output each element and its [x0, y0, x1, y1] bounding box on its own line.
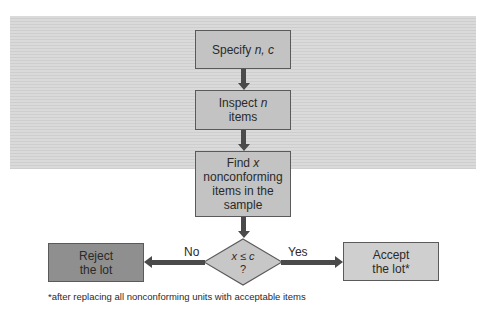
- arrow-head-down-icon: [238, 144, 250, 151]
- arrow-specify-inspect: [241, 69, 246, 83]
- inspect-node: Inspect nitems: [195, 90, 291, 130]
- decision-line2: ?: [240, 263, 246, 275]
- yes-label: Yes: [288, 245, 308, 259]
- arrow-no: [151, 260, 205, 265]
- footnote: *after replacing all nonconforming units…: [48, 291, 306, 302]
- arrow-head-down-icon: [238, 231, 250, 238]
- arrow-head-right-icon: [335, 256, 343, 268]
- find-line4: sample: [224, 198, 263, 212]
- specify-text: Specify: [212, 43, 255, 57]
- no-label: No: [184, 245, 199, 259]
- find-node: Find xnonconformingitems in thesample: [195, 151, 291, 217]
- arrow-yes: [281, 260, 336, 265]
- find-line3: items in the: [212, 184, 273, 198]
- inspect-var: n: [261, 96, 268, 110]
- accept-line2: the lot*: [372, 262, 409, 276]
- specify-vars: n, c: [255, 43, 274, 57]
- arrow-inspect-find: [241, 130, 246, 144]
- inspect-line2: items: [229, 110, 258, 124]
- inspect-text: Inspect: [219, 96, 261, 110]
- reject-node: Rejectthe lot: [48, 243, 144, 282]
- arrow-head-down-icon: [238, 83, 250, 90]
- accept-line1: Accept: [373, 248, 410, 262]
- decision-line1: x ≤ c: [231, 250, 254, 262]
- arrow-head-left-icon: [144, 256, 152, 268]
- reject-line1: Reject: [79, 249, 113, 263]
- decision-text: x ≤ c?: [203, 250, 283, 276]
- specify-node: Specify n, c: [195, 30, 291, 69]
- find-var: x: [253, 156, 259, 170]
- accept-node: Acceptthe lot*: [343, 242, 439, 281]
- find-text: Find: [227, 156, 254, 170]
- reject-line2: the lot: [80, 263, 113, 277]
- arrow-find-decision: [241, 217, 246, 231]
- find-line2: nonconforming: [203, 170, 282, 184]
